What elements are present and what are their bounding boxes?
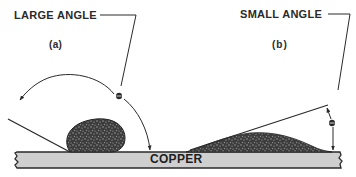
leader-line-a: [100, 15, 136, 86]
contact-angle-diagram: LARGE ANGLE (a) SMALL ANGLE (b) COPPER: [0, 0, 356, 177]
leader-line-b: [328, 14, 350, 90]
caption-small-angle: SMALL ANGLE: [240, 8, 322, 20]
substrate-label: COPPER: [150, 152, 202, 166]
panel-label-a: (a): [49, 39, 62, 50]
theta-icon-a: [116, 93, 122, 99]
panel-label-b: (b): [272, 39, 288, 50]
tangent-line-a: [8, 119, 70, 152]
angle-arrow-b-up: [327, 108, 331, 119]
droplet-small-angle: [186, 133, 332, 152]
angle-arc-a-lower: [124, 99, 150, 150]
diagram-canvas: [0, 0, 356, 177]
caption-large-angle: LARGE ANGLE: [14, 9, 97, 21]
droplet-large-angle: [67, 119, 125, 152]
theta-icon-b: [329, 120, 335, 126]
angle-arc-a-upper: [20, 75, 114, 100]
